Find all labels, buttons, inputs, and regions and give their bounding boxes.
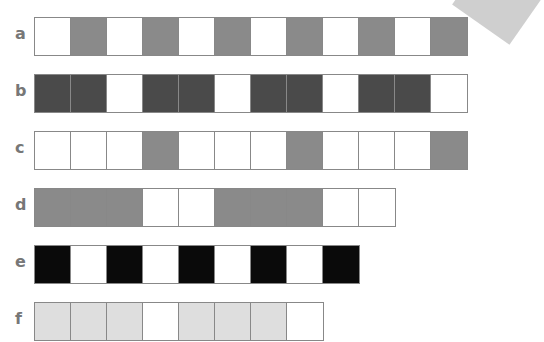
cell-strip [34,188,396,227]
cell-black [107,246,143,283]
cell-mid-gray [431,18,467,55]
cell-mid-gray [107,189,143,226]
cell-white [35,132,71,169]
cell-black [251,246,287,283]
cell-dark-gray [359,75,395,112]
cell-light-gray [71,303,107,340]
cell-mid-gray [143,132,179,169]
cell-dark-gray [143,75,179,112]
cell-dark-gray [251,75,287,112]
cell-white [179,189,215,226]
cell-white [143,246,179,283]
row-label: c [0,138,34,157]
cell-mid-gray [359,18,395,55]
cell-white [215,246,251,283]
cell-white [179,18,215,55]
cell-white [35,18,71,55]
cell-strip [34,131,468,170]
cell-light-gray [179,303,215,340]
cell-white [287,303,323,340]
cell-white [323,18,359,55]
cell-black [35,246,71,283]
row-label: f [0,309,34,328]
cell-strip [34,302,324,341]
cell-mid-gray [431,132,467,169]
cell-dark-gray [287,75,323,112]
cell-white [323,132,359,169]
cell-white [251,18,287,55]
cell-mid-gray [143,18,179,55]
cell-dark-gray [35,75,71,112]
cell-mid-gray [215,18,251,55]
cell-strip [34,245,360,284]
cell-light-gray [215,303,251,340]
cell-black [179,246,215,283]
row-label: e [0,252,34,271]
cell-white [179,132,215,169]
cell-dark-gray [71,75,107,112]
row-label: a [0,24,34,43]
cell-white [215,132,251,169]
cell-white [395,18,431,55]
cell-mid-gray [215,189,251,226]
row-label: b [0,81,34,100]
cell-white [251,132,287,169]
pattern-row-b: b [0,74,468,112]
pattern-row-a: a [0,17,468,55]
cell-white [323,75,359,112]
pattern-row-c: c [0,131,468,169]
cell-white [107,18,143,55]
cell-white [323,189,359,226]
cell-white [215,75,251,112]
cell-white [107,75,143,112]
cell-white [71,132,107,169]
cell-mid-gray [71,18,107,55]
cell-mid-gray [71,189,107,226]
pattern-row-e: e [0,245,360,283]
cell-mid-gray [287,18,323,55]
cell-white [359,189,395,226]
cell-mid-gray [287,189,323,226]
cell-light-gray [251,303,287,340]
cell-white [143,189,179,226]
cell-white [395,132,431,169]
cell-dark-gray [179,75,215,112]
row-label: d [0,195,34,214]
cell-dark-gray [395,75,431,112]
cell-light-gray [107,303,143,340]
cell-black [323,246,359,283]
cell-strip [34,74,468,113]
cell-strip [34,17,468,56]
cell-light-gray [35,303,71,340]
cell-white [143,303,179,340]
cell-white [287,246,323,283]
cell-white [359,132,395,169]
cell-mid-gray [287,132,323,169]
cell-white [107,132,143,169]
cell-white [431,75,467,112]
cell-white [71,246,107,283]
cell-mid-gray [35,189,71,226]
pattern-row-f: f [0,302,324,340]
pattern-row-d: d [0,188,396,226]
cell-mid-gray [251,189,287,226]
